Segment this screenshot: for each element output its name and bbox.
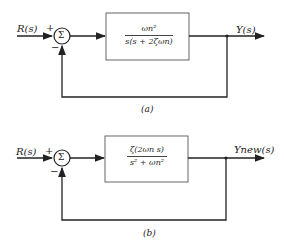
numerator-a: ωn² <box>124 25 174 35</box>
minus-sign-a: − <box>51 43 59 53</box>
transfer-function-a: ωn² s(s + 2ζωn) <box>124 25 174 46</box>
plus-sign-a: + <box>46 23 54 33</box>
caption-a: (a) <box>141 104 153 114</box>
summer-a: Σ <box>58 31 64 40</box>
input-label-b: R(s) <box>16 147 36 157</box>
caption-b: (b) <box>143 228 156 238</box>
output-label-b: Ynew(s) <box>234 145 274 155</box>
output-label-a: Y(s) <box>236 25 256 35</box>
input-label-a: R(s) <box>17 24 37 34</box>
denominator-b: s² + ωn² <box>126 157 168 167</box>
denominator-a: s(s + 2ζωn) <box>124 36 174 46</box>
minus-sign-b: − <box>50 167 58 177</box>
plus-sign-b: + <box>45 146 53 156</box>
numerator-b: ζ(2ωn s) <box>126 146 168 156</box>
transfer-function-b: ζ(2ωn s) s² + ωn² <box>126 146 168 167</box>
summer-b: Σ <box>58 153 64 162</box>
